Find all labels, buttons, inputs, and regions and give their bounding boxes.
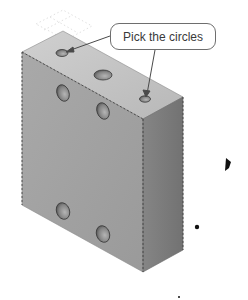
hole-top-left[interactable] xyxy=(56,50,68,57)
block-side-face xyxy=(143,97,183,272)
speck-medium xyxy=(195,225,199,229)
stray-specks xyxy=(178,158,231,298)
callout-text: Pick the circles xyxy=(123,30,203,44)
hole-top-center[interactable] xyxy=(94,70,112,80)
hole-top-right[interactable] xyxy=(140,96,151,102)
speck-small xyxy=(178,296,180,298)
speck-large xyxy=(225,158,231,171)
callout-label: Pick the circles xyxy=(110,23,216,50)
